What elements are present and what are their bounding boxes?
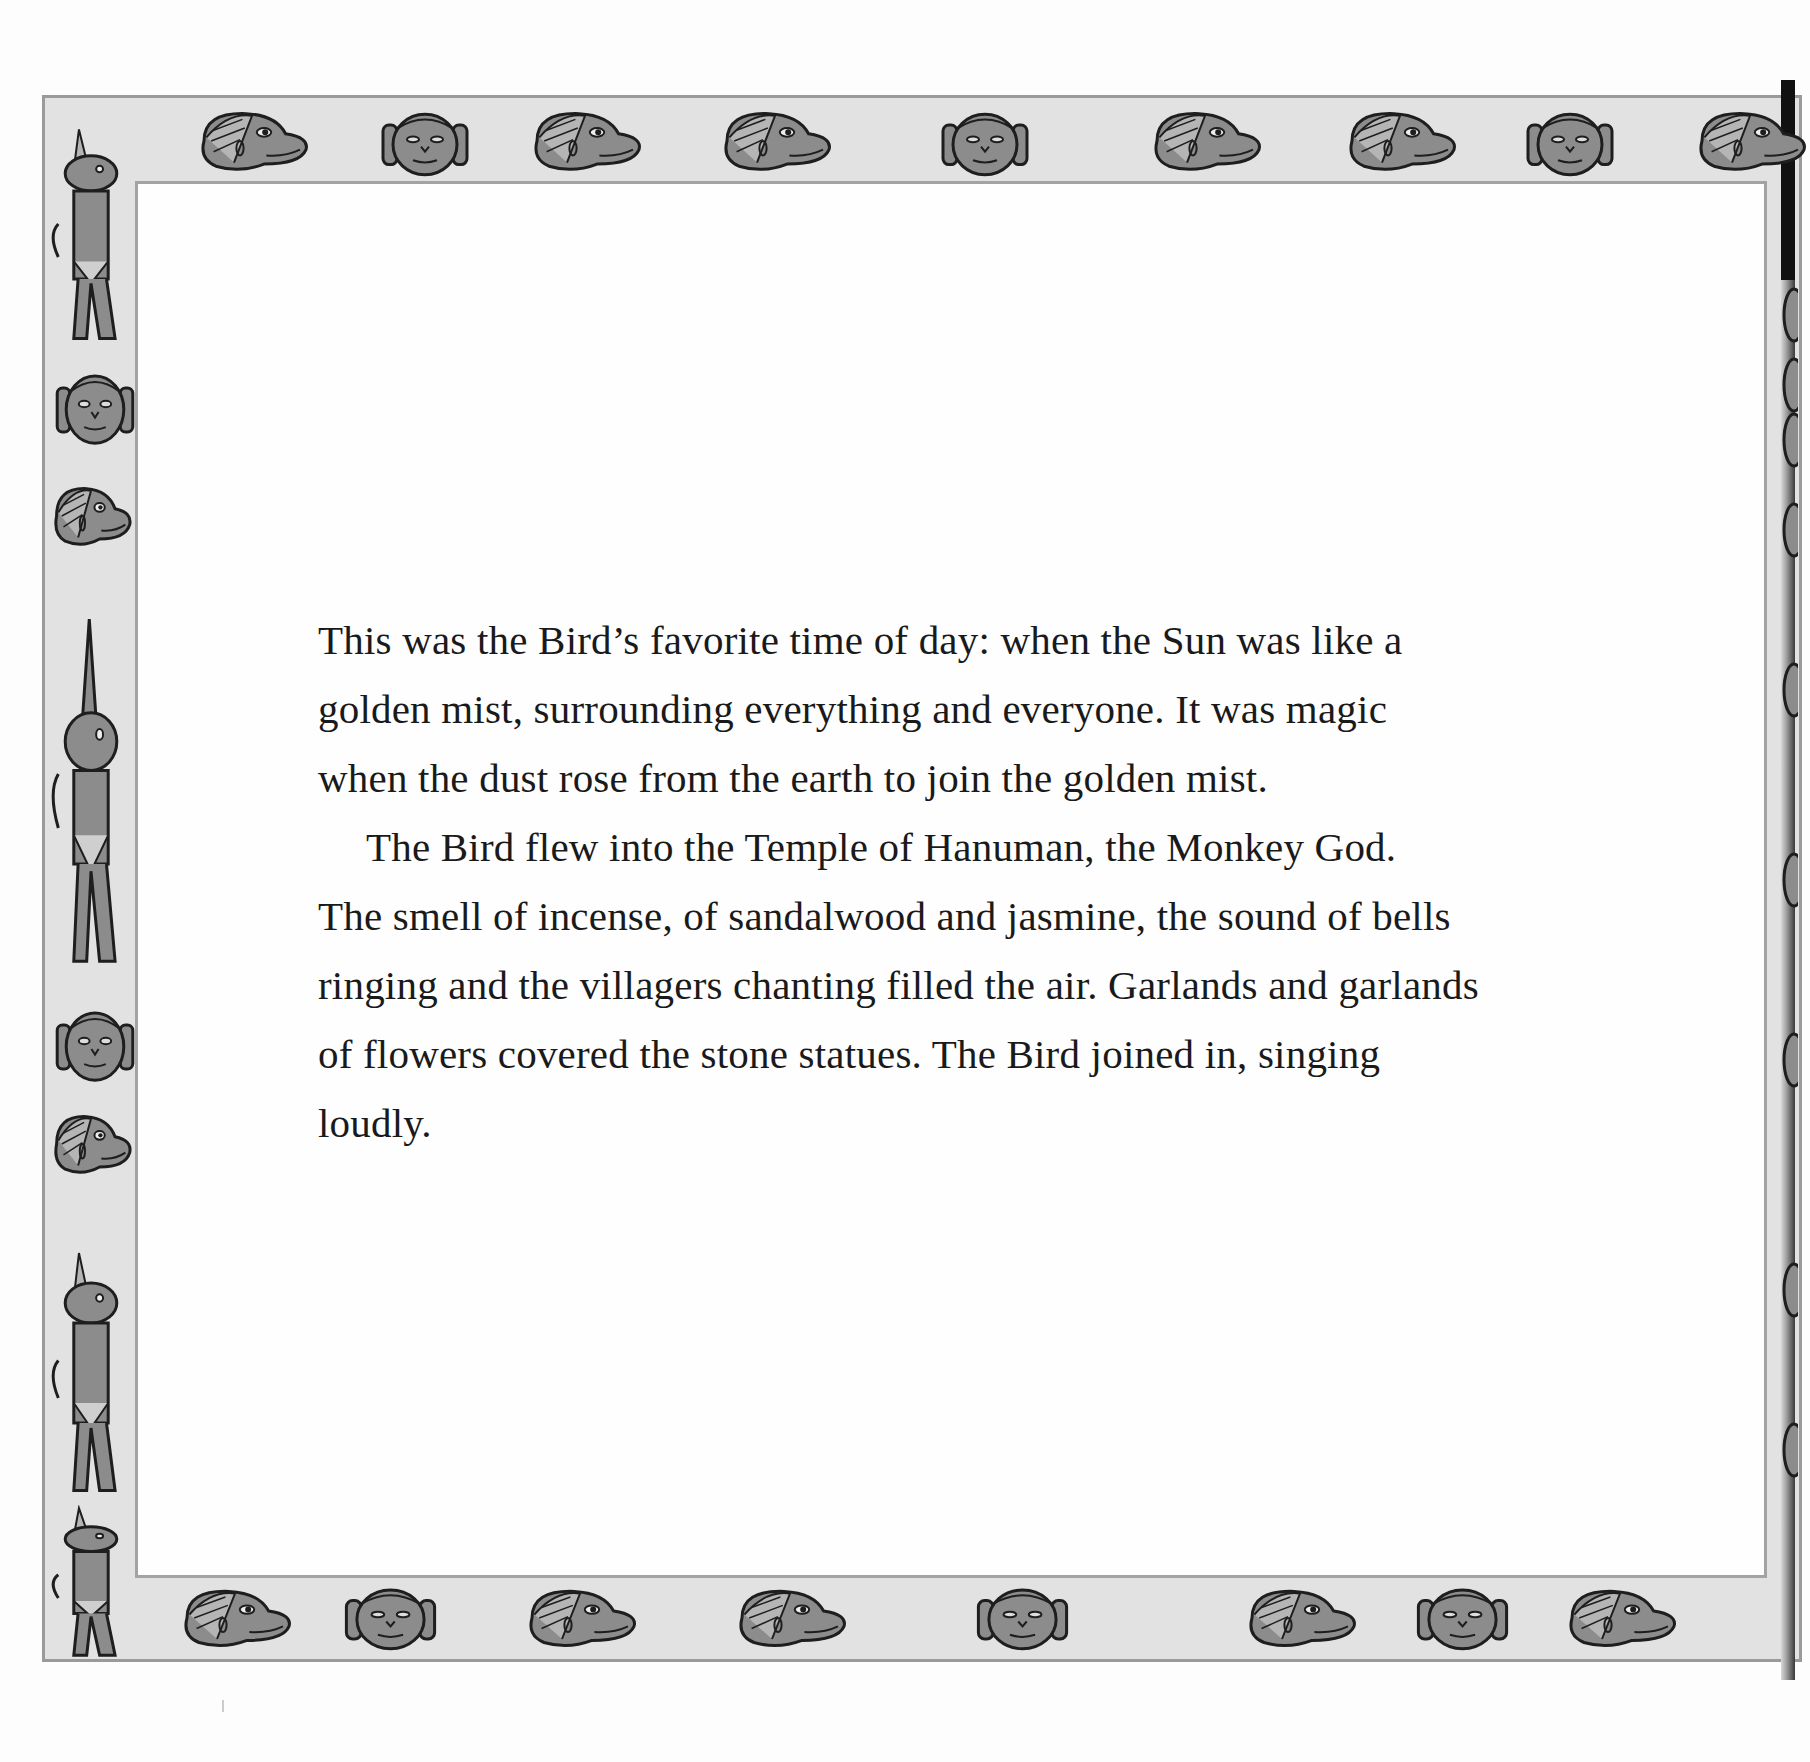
monkey-head-profile-icon (1340, 105, 1460, 177)
monkey-kneeling-icon (48, 1505, 134, 1660)
monkey-head-profile-icon (715, 105, 835, 177)
partial-monkey-figure-icon (1778, 1420, 1798, 1480)
monkey-head-profile-icon (48, 480, 134, 552)
story-line: This was the Bird’s favorite time of day… (318, 617, 1402, 663)
partial-monkey-figure-icon (1778, 285, 1798, 345)
monkey-standing-icon (48, 1248, 134, 1498)
monkey-face-front-icon (375, 107, 475, 179)
story-line: of flowers covered the stone statues. Th… (318, 1031, 1380, 1077)
monkey-arms-raised-icon (48, 612, 134, 972)
monkey-head-profile-icon (730, 1583, 850, 1653)
monkey-head-profile-icon (1690, 105, 1810, 177)
partial-monkey-figure-icon (1778, 355, 1798, 415)
monkey-face-front-icon (50, 368, 140, 448)
story-line: loudly. (318, 1100, 432, 1146)
story-paragraph-1: This was the Bird’s favorite time of day… (318, 606, 1618, 813)
partial-monkey-figure-icon (1778, 1260, 1798, 1320)
story-text: This was the Bird’s favorite time of day… (318, 606, 1618, 1158)
monkey-face-front-icon (50, 1005, 140, 1085)
monkey-head-profile-icon (1145, 105, 1265, 177)
monkey-head-profile-icon (48, 1108, 134, 1180)
monkey-face-front-icon (935, 107, 1035, 179)
story-line: The smell of incense, of sandalwood and … (318, 893, 1451, 939)
monkey-head-profile-icon (525, 105, 645, 177)
partial-monkey-figure-icon (1778, 1030, 1798, 1090)
monkey-head-profile-icon (175, 1583, 295, 1653)
story-line: when the dust rose from the earth to joi… (318, 755, 1268, 801)
monkey-face-front-icon (1520, 107, 1620, 179)
story-line: golden mist, surrounding everything and … (318, 686, 1387, 732)
partial-monkey-figure-icon (1778, 410, 1798, 470)
monkey-head-profile-icon (192, 105, 312, 177)
partial-monkey-figure-icon (1778, 850, 1798, 910)
monkey-face-front-icon (970, 1583, 1075, 1653)
story-line: The Bird flew into the Temple of Hanuman… (366, 824, 1396, 870)
monkey-head-profile-icon (1240, 1583, 1360, 1653)
monkey-face-front-icon (1410, 1583, 1515, 1653)
monkey-face-front-icon (338, 1583, 443, 1653)
monkey-head-profile-icon (520, 1583, 640, 1653)
monkey-standing-praying-icon (48, 125, 134, 345)
partial-monkey-figure-icon (1778, 500, 1798, 560)
story-line: ringing and the villagers chanting fille… (318, 962, 1479, 1008)
partial-monkey-figure-icon (1778, 660, 1798, 720)
story-paragraph-2: The Bird flew into the Temple of Hanuman… (318, 813, 1618, 1158)
monkey-head-profile-icon (1560, 1583, 1680, 1653)
paper-speck (222, 1700, 224, 1712)
